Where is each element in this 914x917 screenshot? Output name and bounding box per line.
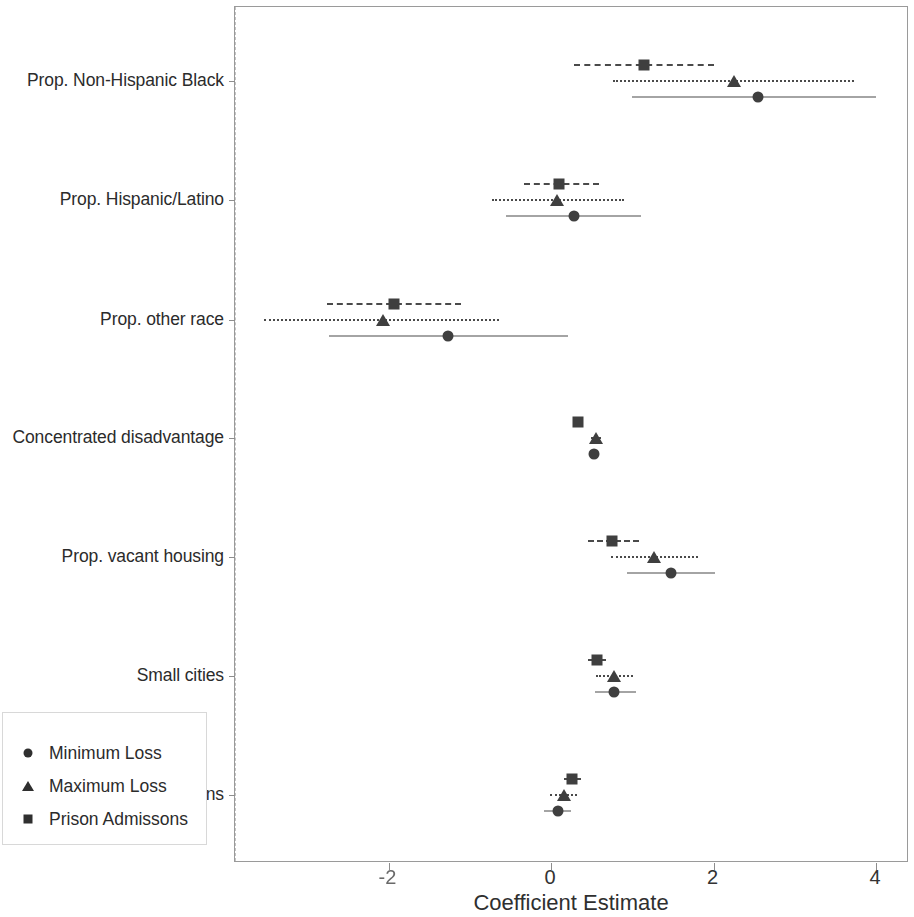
estimate-marker-circle — [552, 806, 563, 817]
legend-label: Maximum Loss — [49, 776, 167, 797]
estimate-marker-square — [567, 774, 578, 785]
y-axis-tick — [229, 557, 235, 558]
estimate-marker-triangle — [589, 432, 603, 444]
legend-circle-icon — [21, 746, 35, 760]
legend-triangle-icon — [21, 779, 35, 793]
x-axis-tick-label-2: 2 — [707, 866, 718, 889]
estimate-marker-triangle — [550, 194, 564, 206]
estimate-marker-triangle — [727, 75, 741, 87]
y-axis-tick — [229, 81, 235, 82]
forest-plot-figure: Prop. Non-Hispanic BlackProp. Hispanic/L… — [0, 0, 914, 917]
estimate-marker-square — [572, 417, 583, 428]
x-axis-tick-label-0: -2 — [379, 866, 397, 889]
legend-square-icon — [21, 812, 35, 826]
estimate-marker-square — [592, 655, 603, 666]
y-axis-tick — [229, 200, 235, 201]
x-axis-tick-label-3: 4 — [869, 866, 880, 889]
y-axis-label-3: Concentrated disadvantage — [12, 427, 224, 448]
x-axis-title: Coefficient Estimate — [234, 890, 908, 916]
y-axis-label-4: Prop. vacant housing — [62, 546, 224, 567]
y-axis-tick — [229, 320, 235, 321]
legend-entry: Maximum Loss — [21, 776, 167, 796]
y-axis-tick — [229, 676, 235, 677]
estimate-marker-square — [389, 299, 400, 310]
legend: Minimum LossMaximum LossPrison Admissons — [2, 712, 207, 845]
y-axis-label-5: Small cities — [137, 665, 224, 686]
estimate-marker-circle — [568, 211, 579, 222]
estimate-marker-circle — [442, 331, 453, 342]
y-axis-label-2: Prop. other race — [100, 309, 224, 330]
estimate-marker-triangle — [376, 314, 390, 326]
legend-label: Minimum Loss — [49, 743, 162, 764]
y-axis-tick — [229, 795, 235, 796]
x-axis-tick-label-1: 0 — [544, 866, 555, 889]
estimate-marker-circle — [753, 92, 764, 103]
zero-reference-line — [235, 7, 236, 861]
estimate-marker-triangle — [557, 789, 571, 801]
estimate-marker-triangle — [607, 670, 621, 682]
y-axis-label-1: Prop. Hispanic/Latino — [60, 189, 224, 210]
y-axis-label-0: Prop. Non-Hispanic Black — [27, 70, 224, 91]
legend-entry: Prison Admissons — [21, 809, 188, 829]
estimate-marker-triangle — [647, 551, 661, 563]
estimate-marker-circle — [589, 449, 600, 460]
estimate-marker-circle — [609, 687, 620, 698]
estimate-marker-circle — [666, 568, 677, 579]
estimate-marker-square — [638, 60, 649, 71]
estimate-marker-square — [606, 536, 617, 547]
legend-entry: Minimum Loss — [21, 743, 162, 763]
legend-label: Prison Admissons — [49, 809, 188, 830]
estimate-marker-square — [554, 179, 565, 190]
plot-area — [234, 6, 908, 862]
y-axis-tick — [229, 438, 235, 439]
